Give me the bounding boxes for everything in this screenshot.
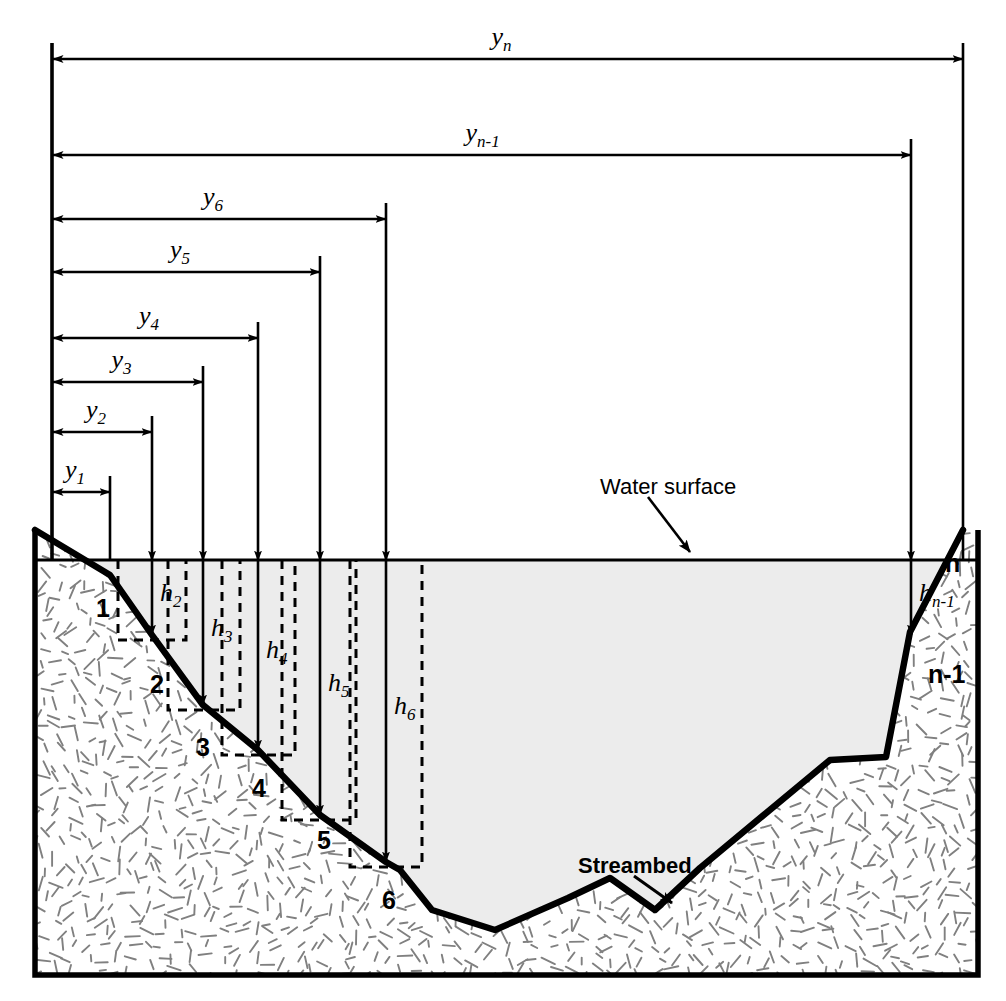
- station-label-1: 1: [96, 596, 110, 621]
- width-label-y1: y1: [65, 457, 85, 487]
- width-dimension-arrows: [53, 59, 963, 492]
- station-label-5: 5: [317, 828, 331, 853]
- width-label-yn-1: yn-1: [466, 120, 500, 150]
- width-label-y6: y6: [203, 184, 223, 214]
- width-label-y4: y4: [139, 303, 159, 333]
- width-label-y2: y2: [86, 397, 106, 427]
- station-label-n-1: n-1: [928, 662, 966, 687]
- water-surface-label: Water surface: [600, 476, 736, 498]
- station-label-n: n: [945, 551, 960, 576]
- station-label-4: 4: [252, 776, 266, 801]
- station-label-3: 3: [196, 735, 210, 760]
- depth-label-h2: h2: [160, 580, 182, 610]
- depth-label-h5: h5: [328, 670, 350, 700]
- station-label-2: 2: [150, 672, 164, 697]
- depth-label-h6: h6: [394, 693, 416, 723]
- water-surface-leader-arrow: [648, 497, 690, 552]
- depth-label-h4: h4: [266, 637, 288, 667]
- width-label-y3: y3: [112, 347, 132, 377]
- width-label-yn: yn: [492, 24, 512, 54]
- cross-section-diagram: [0, 0, 1006, 1001]
- depth-label-hn-1: hn-1: [919, 580, 955, 610]
- station-extension-lines: [110, 43, 963, 560]
- figure-canvas: y1y2y3y4y5y6yn-1ynh2h3h4h5h6hn-1123456n-…: [0, 0, 1006, 1001]
- streambed-label: Streambed: [578, 855, 692, 877]
- depth-label-h3: h3: [211, 615, 233, 645]
- width-label-y5: y5: [170, 237, 190, 267]
- station-label-6: 6: [382, 888, 396, 913]
